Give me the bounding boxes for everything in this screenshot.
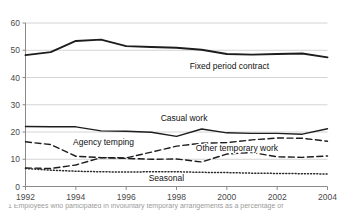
x-tick-label: 1992 (16, 192, 35, 202)
series-line-3 (26, 152, 328, 168)
y-tick-label: 10 (11, 154, 21, 164)
series-label-4: Seasonal (149, 173, 185, 183)
series-label-0: Fixed period contract (190, 61, 270, 71)
y-tick-label: 50 (11, 45, 21, 55)
series-annotation-labels: Fixed period contractFixed period contra… (73, 61, 279, 183)
y-tick-label: 40 (11, 73, 21, 83)
series-line-0 (26, 40, 328, 58)
y-tick-label: 20 (11, 127, 21, 137)
series-label-3: Other temporary work (196, 143, 279, 153)
x-axis-ticks (26, 187, 328, 191)
x-tick-label: 1994 (66, 192, 85, 202)
y-tick-label: 0 (15, 182, 20, 192)
series-line-2 (26, 138, 328, 158)
chart-figure: 0102030405060 19921994199619982000200220… (0, 0, 341, 212)
x-tick-label: 1996 (117, 192, 136, 202)
line-chart: 0102030405060 19921994199619982000200220… (0, 0, 341, 212)
y-tick-label: 30 (11, 100, 21, 110)
series-line-1 (26, 127, 328, 137)
x-tick-label: 2004 (318, 192, 337, 202)
x-axis-tick-labels: 1992199419961998200020022004 (16, 192, 337, 202)
x-tick-label: 2000 (217, 192, 236, 202)
x-tick-label: 2002 (268, 192, 287, 202)
bottom-cut-text-region: 1 Employees who participated in involunt… (0, 204, 341, 212)
bottom-cut-text: 1 Employees who participated in involunt… (8, 204, 283, 209)
y-axis-tick-labels: 0102030405060 (11, 18, 21, 192)
data-series-group (26, 40, 328, 174)
x-tick-label: 1998 (167, 192, 186, 202)
series-label-1: Casual work (161, 113, 209, 123)
y-tick-label: 60 (11, 18, 21, 28)
series-label-2: Agency temping (73, 137, 134, 147)
